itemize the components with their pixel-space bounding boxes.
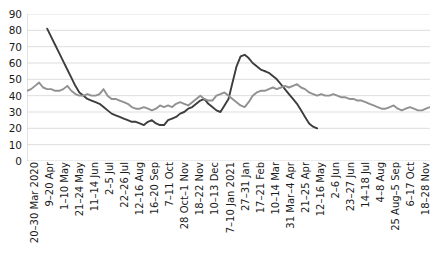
y-tick-label: 10 <box>9 139 22 150</box>
x-tick-label: 31 Mar–4 Apr <box>286 162 296 229</box>
y-tick-label: 0 <box>15 156 22 167</box>
x-tick-label: 11–14 Jun <box>90 162 100 211</box>
x-tick-label: 20–30 Mar 2020 <box>30 162 40 243</box>
y-tick-label: 80 <box>9 25 22 36</box>
y-tick-label: 30 <box>9 107 22 118</box>
x-tick-label: 6–17 Oct <box>406 162 416 207</box>
x-tick-label: 12–16 Aug <box>135 162 145 215</box>
y-axis: 0102030405060708090 <box>0 0 26 266</box>
x-tick-label: 2–5 Jul <box>105 162 115 195</box>
x-tick-label: 27–31 Jan <box>241 162 251 211</box>
x-tick-label: 7–10 Jan 2021 <box>226 162 236 233</box>
x-tick-label: 14–18 Jul <box>361 162 371 208</box>
y-tick-label: 90 <box>9 9 22 20</box>
x-tick-label: 1–10 May <box>60 162 70 210</box>
x-tick-label: 28 Oct–1 Nov <box>180 162 190 229</box>
x-tick-label: 12–16 May <box>316 162 326 216</box>
x-tick-label: 21–24 May <box>75 162 85 216</box>
x-tick-label: 22–26 Jul <box>120 162 130 208</box>
x-tick-label: 18–28 Nov <box>421 162 431 215</box>
y-tick-label: 50 <box>9 74 22 85</box>
x-tick-label: 17–21 Feb <box>256 162 266 213</box>
series-line <box>47 29 265 125</box>
x-tick-label: 21–25 Apr <box>301 162 311 213</box>
series-line <box>27 83 430 111</box>
x-tick-label: 16–20 Sep <box>150 162 160 214</box>
x-axis: 20–30 Mar 20209–20 Apr1–10 May21–24 May1… <box>27 162 430 266</box>
x-tick-label: 2–6 Jun <box>331 162 341 199</box>
x-tick-label: 9–20 Apr <box>45 162 55 207</box>
x-tick-label: 23–27 Jun <box>346 162 356 211</box>
x-tick-label: 4–8 Aug <box>376 162 386 202</box>
x-tick-label: 18–22 Nov <box>195 162 205 215</box>
data-series-layer <box>27 14 430 161</box>
x-tick-label: 7–11 Oct <box>165 162 175 207</box>
y-tick-label: 40 <box>9 90 22 101</box>
line-chart: 0102030405060708090 20–30 Mar 20209–20 A… <box>0 0 433 266</box>
plot-area <box>27 14 430 161</box>
x-tick-label: 10–14 Mar <box>271 162 281 215</box>
series-line <box>265 71 317 128</box>
x-tick-label: 10–13 Dec <box>210 162 220 215</box>
y-tick-label: 60 <box>9 58 22 69</box>
y-tick-label: 70 <box>9 41 22 52</box>
y-tick-label: 20 <box>9 123 22 134</box>
x-tick-label: 25 Aug–5 Sep <box>391 162 401 231</box>
